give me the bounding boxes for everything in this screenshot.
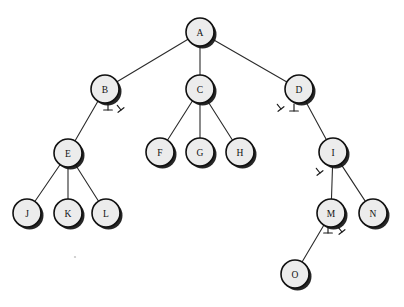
null-marker-d-2 <box>290 104 299 111</box>
node-circle-n[interactable] <box>359 199 387 227</box>
tree-node-c[interactable]: C <box>186 75 217 106</box>
node-circle-f[interactable] <box>146 138 174 166</box>
null-marker-b-1 <box>114 103 124 112</box>
tree-node-b[interactable]: B <box>91 75 122 106</box>
tree-edge-c-h <box>207 100 233 141</box>
tree-edge-m-o <box>302 224 325 263</box>
tree-edge-b-e <box>75 100 99 142</box>
node-circle-k[interactable] <box>54 199 82 227</box>
tree-node-d[interactable]: D <box>285 75 316 106</box>
node-circle-g[interactable] <box>186 138 214 166</box>
node-circle-m[interactable] <box>317 199 345 227</box>
tree-edge-e-j <box>34 164 60 203</box>
node-circle-c[interactable] <box>186 75 214 103</box>
tree-node-a[interactable]: A <box>186 18 217 49</box>
node-circle-h[interactable] <box>226 138 254 166</box>
scan-speck <box>74 256 76 258</box>
node-circle-a[interactable] <box>186 18 214 46</box>
node-circle-d[interactable] <box>285 75 313 103</box>
tree-edge-a-d <box>211 38 287 82</box>
tree-node-g[interactable]: G <box>186 138 217 169</box>
tree-node-n[interactable]: N <box>359 199 390 230</box>
node-circle-e[interactable] <box>54 139 82 167</box>
tree-node-i[interactable]: I <box>319 138 350 169</box>
tree-diagram-svg: ABCDEFGHIJKLMNO <box>0 0 404 307</box>
tree-node-h[interactable]: H <box>226 138 257 169</box>
tree-node-l[interactable]: L <box>92 199 123 230</box>
null-markers-layer <box>104 102 345 234</box>
node-circle-b[interactable] <box>91 75 119 103</box>
node-circle-l[interactable] <box>92 199 120 227</box>
tree-diagram-canvas: ABCDEFGHIJKLMNO <box>0 0 404 307</box>
tree-node-k[interactable]: K <box>54 199 85 230</box>
node-circle-j[interactable] <box>13 199 41 227</box>
tree-edge-c-f <box>167 100 193 141</box>
artifact-layer <box>74 256 76 258</box>
tree-edge-i-m <box>331 165 332 200</box>
null-marker-d-3 <box>274 102 284 111</box>
tree-node-o[interactable]: O <box>281 260 312 291</box>
node-circle-i[interactable] <box>319 138 347 166</box>
nodes-layer: ABCDEFGHIJKLMNO <box>13 18 390 291</box>
tree-node-f[interactable]: F <box>146 138 177 169</box>
tree-edge-d-i <box>305 100 327 140</box>
tree-edge-e-l <box>75 164 99 202</box>
node-circle-o[interactable] <box>281 260 309 288</box>
tree-node-j[interactable]: J <box>13 199 44 230</box>
tree-node-m[interactable]: M <box>317 199 348 230</box>
tree-edge-i-n <box>340 163 366 202</box>
null-marker-i-4 <box>313 166 323 175</box>
tree-edge-a-b <box>116 39 189 83</box>
tree-node-e[interactable]: E <box>54 139 85 170</box>
